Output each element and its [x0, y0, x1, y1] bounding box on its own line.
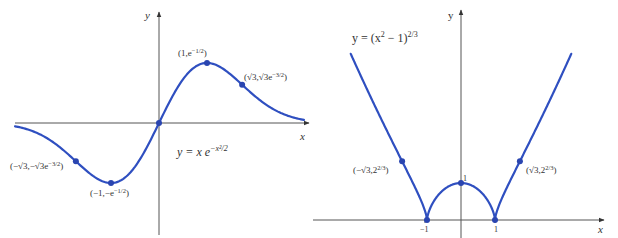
data-point: [517, 158, 523, 164]
label-right-right-point: (√3,22/3): [526, 164, 557, 175]
right-x-axis-label: x: [597, 223, 603, 235]
right-y-axis-label: y: [448, 9, 454, 21]
data-point: [156, 120, 162, 126]
data-point: [73, 158, 79, 164]
data-point: [108, 180, 114, 186]
left-equation: y = x e−x²/2: [176, 144, 228, 159]
data-point: [399, 158, 405, 164]
right-chart: x y −1 1 1 y = (x2 − 1)2/3 (−√3,22/3) (√…: [313, 9, 604, 238]
tick-label-neg1: −1: [420, 225, 429, 234]
left-x-axis-label: x: [299, 130, 305, 142]
label-max: (1,e−1/2): [178, 47, 207, 58]
data-point: [492, 217, 498, 223]
data-point: [424, 217, 430, 223]
data-point: [458, 180, 464, 186]
right-curve-left-branch: [351, 54, 427, 220]
right-equation: y = (x2 − 1)2/3: [352, 30, 418, 45]
right-curve-right-branch: [495, 54, 571, 220]
left-y-axis-label: y: [144, 9, 150, 21]
label-min: (−1,−e−1/2): [90, 187, 129, 198]
left-chart: x y y = x e−x²/2 (1,e−1/2) (√3,√3e−3/2) …: [10, 9, 309, 235]
label-right-left-point: (−√3,22/3): [353, 164, 389, 175]
data-point: [204, 60, 210, 66]
data-point: [239, 82, 245, 88]
label-inflection-right: (√3,√3e−3/2): [244, 71, 287, 82]
tick-label-1: 1: [494, 225, 498, 234]
label-inflection-left: (−√3,−√3e−3/2): [10, 160, 63, 171]
figure-canvas: x y y = x e−x²/2 (1,e−1/2) (√3,√3e−3/2) …: [0, 0, 618, 238]
